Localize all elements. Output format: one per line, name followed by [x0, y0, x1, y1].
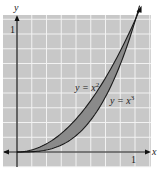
- y-axis-label: y: [13, 2, 19, 13]
- x-axis-label: x: [151, 146, 157, 157]
- x-tick-label: 1: [131, 154, 136, 165]
- y-tick-label: 1: [10, 24, 15, 35]
- chart: x y 1 1 y = x2 y = x3: [0, 0, 159, 170]
